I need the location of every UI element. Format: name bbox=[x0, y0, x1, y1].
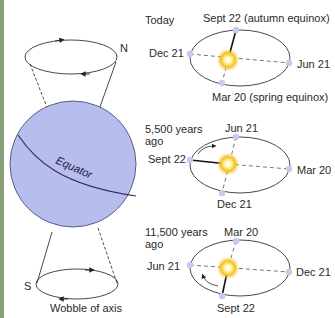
south-axis-line bbox=[37, 232, 52, 283]
label-right: Mar 20 bbox=[297, 164, 331, 176]
label-bottom: Dec 21 bbox=[217, 198, 252, 210]
label-bottom: Sept 22 bbox=[217, 302, 255, 314]
label-right: Jun 21 bbox=[297, 58, 330, 70]
label-left: Dec 21 bbox=[149, 47, 184, 59]
wobble-globe-group: Equator N S Wobble of axis bbox=[10, 40, 136, 314]
precession-arrow bbox=[198, 146, 214, 154]
south-cone-line-dashed bbox=[98, 228, 117, 283]
earth-marker-left bbox=[187, 262, 193, 268]
south-wobble-ellipse bbox=[36, 269, 118, 299]
orbit-ellipse bbox=[190, 137, 290, 193]
earth-marker-top bbox=[233, 238, 239, 244]
label-top: Sept 22 (autumn equinox) bbox=[203, 12, 330, 24]
precession-arrow bbox=[203, 276, 218, 286]
earth-marker-bottom bbox=[219, 190, 225, 196]
precession-diagram: Equator N S Wobble of axis Today Sept 22… bbox=[0, 0, 335, 318]
earth-marker-right bbox=[286, 60, 292, 66]
sun-icon bbox=[217, 257, 239, 279]
south-label: S bbox=[24, 280, 31, 292]
earth-marker-left bbox=[187, 157, 193, 163]
orbit-ellipse bbox=[190, 30, 290, 86]
earth-marker-left bbox=[187, 51, 193, 57]
orbit-title-line2: ago bbox=[145, 238, 163, 250]
earth-marker-right bbox=[286, 166, 292, 172]
earth-marker-right bbox=[286, 269, 292, 275]
sun-icon bbox=[217, 49, 239, 71]
label-right: Dec 21 bbox=[296, 266, 331, 278]
sun-icon bbox=[217, 153, 239, 175]
label-bottom: Mar 20 (spring equinox) bbox=[212, 91, 328, 103]
axis-dashed-horizontal bbox=[190, 265, 289, 272]
label-left: Jun 21 bbox=[147, 260, 180, 272]
earth-marker-bottom bbox=[219, 293, 225, 299]
label-top: Jun 21 bbox=[225, 122, 258, 134]
orbit-title-line2: ago bbox=[145, 135, 163, 147]
orbit-title: 11,500 years bbox=[145, 226, 208, 238]
north-wobble-ellipse bbox=[25, 40, 117, 74]
orbit-title: Today bbox=[145, 14, 175, 26]
orbit-today: Today Sept 22 (autumn equinox) Dec 21 Ju… bbox=[145, 12, 330, 103]
label-top: Mar 20 bbox=[224, 226, 258, 238]
label-left: Sept 22 bbox=[148, 153, 186, 165]
orbit-11500-years-ago: 11,500 years ago Mar 20 Jun 21 Dec 21 Se… bbox=[145, 226, 331, 314]
orbit-ellipse bbox=[190, 240, 290, 296]
earth-marker-bottom bbox=[219, 80, 225, 86]
north-wobble-arrow-top bbox=[55, 40, 62, 41]
wobble-caption: Wobble of axis bbox=[50, 302, 122, 314]
earth-marker-top bbox=[233, 134, 239, 140]
earth-marker-top bbox=[233, 27, 239, 33]
orbit-5500-years-ago: 5,500 years ago Jun 21 Sept 22 Mar 20 De… bbox=[145, 122, 331, 210]
orbit-title: 5,500 years bbox=[145, 123, 203, 135]
north-label: N bbox=[120, 42, 128, 54]
axis-dashed-horizontal bbox=[190, 54, 289, 63]
